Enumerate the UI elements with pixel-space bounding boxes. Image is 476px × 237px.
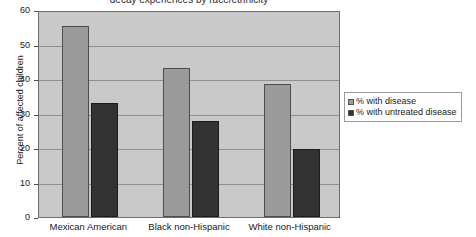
bar-chart: decay experiences by race/ethnicity Perc… <box>0 0 476 237</box>
y-tick-label: 50 <box>0 41 30 50</box>
y-tick-label: 30 <box>0 110 30 119</box>
legend-label: % with untreated disease <box>356 107 457 118</box>
x-tick-label: Mexican American <box>38 221 139 232</box>
y-tick-label: 20 <box>0 144 30 153</box>
bar <box>192 121 219 217</box>
legend-swatch-icon <box>348 99 354 105</box>
plot-area <box>38 11 340 218</box>
y-tick-label: 0 <box>0 213 30 222</box>
bar <box>91 103 118 217</box>
y-tick-mark <box>34 218 38 219</box>
y-tick-label: 60 <box>0 6 30 15</box>
legend-item[interactable]: % with untreated disease <box>348 107 457 118</box>
bar <box>163 68 190 217</box>
bar <box>264 84 291 217</box>
legend-swatch-icon <box>348 110 354 116</box>
bar <box>62 26 89 217</box>
legend-label: % with disease <box>356 96 416 107</box>
chart-title: decay experiences by race/ethnicity <box>38 0 340 6</box>
x-tick-label: White non-Hispanic <box>239 221 340 232</box>
y-tick-label: 10 <box>0 179 30 188</box>
x-tick-label: Black non-Hispanic <box>139 221 240 232</box>
legend-item[interactable]: % with disease <box>348 96 457 107</box>
bar <box>293 149 320 217</box>
legend: % with disease% with untreated disease <box>344 92 462 122</box>
y-tick-label: 40 <box>0 75 30 84</box>
